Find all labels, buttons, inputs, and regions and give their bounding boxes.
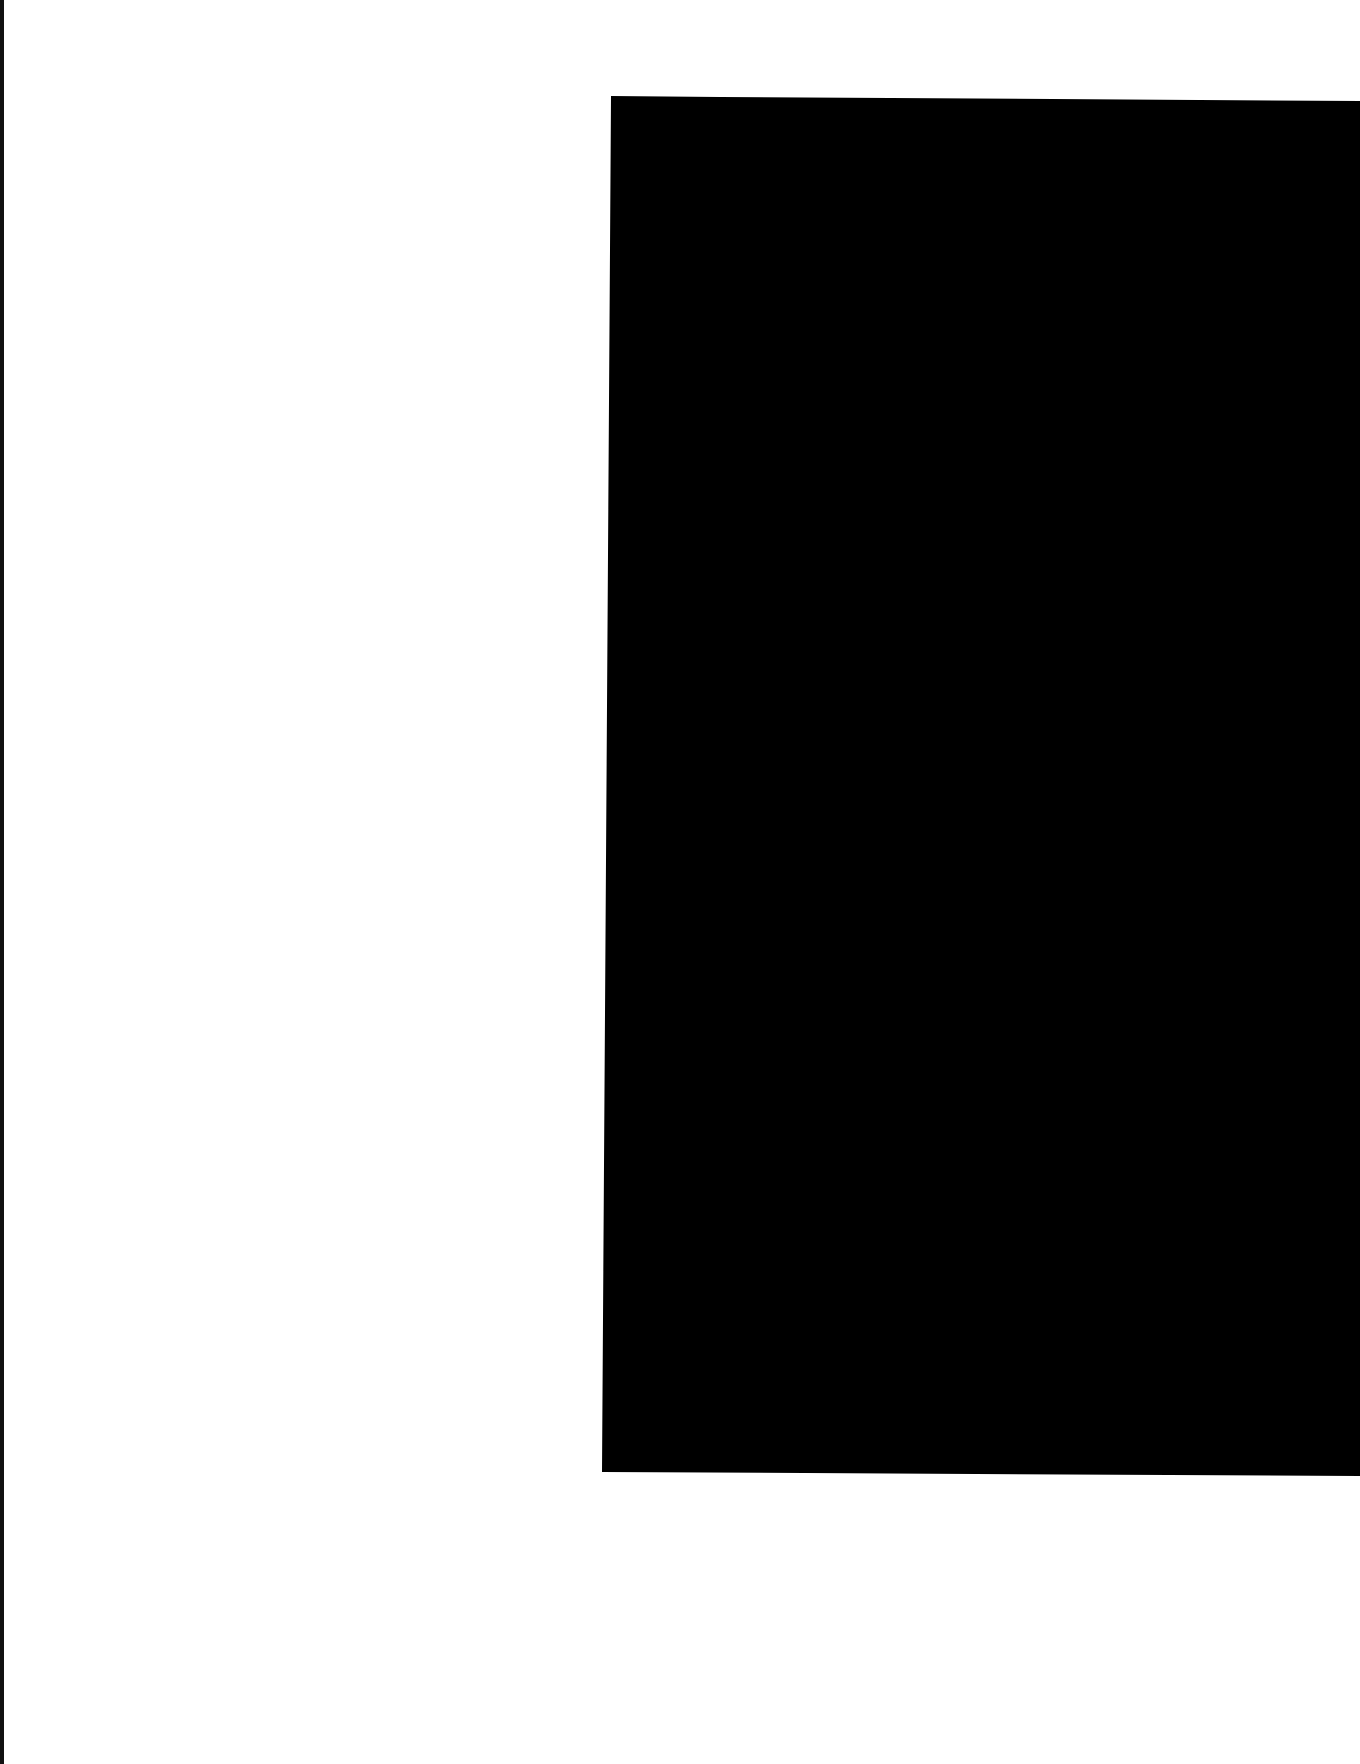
redaction-shape	[602, 96, 1360, 1476]
redaction-block	[0, 0, 1360, 1764]
